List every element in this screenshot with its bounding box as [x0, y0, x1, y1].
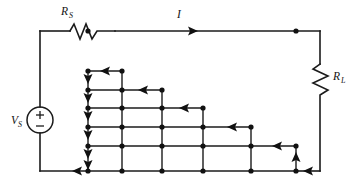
- mesh-node: [248, 124, 253, 129]
- mesh-node: [200, 124, 205, 129]
- mesh-node: [159, 168, 164, 173]
- mesh-node: [119, 105, 124, 110]
- mesh-node: [85, 124, 90, 129]
- mesh-node: [119, 68, 124, 73]
- mesh-node: [293, 143, 298, 148]
- mesh-node: [293, 168, 298, 173]
- mesh-node: [119, 143, 124, 148]
- mesh-node: [200, 168, 205, 173]
- load-resistor-label: R: [332, 70, 340, 82]
- mesh-node: [159, 87, 164, 92]
- node-top-left-tap: [85, 28, 90, 33]
- voltage-source-circle: [27, 107, 53, 133]
- mesh-node: [248, 168, 253, 173]
- mesh-node: [119, 87, 124, 92]
- circuit-schematic-svg: R S I R L V S: [0, 0, 353, 185]
- node-top-right-tap: [293, 28, 298, 33]
- mesh-node: [85, 143, 90, 148]
- load-resistor-label-subscript: L: [340, 76, 346, 85]
- mesh-node: [159, 124, 164, 129]
- current-label: I: [176, 8, 182, 20]
- mesh-node: [119, 168, 124, 173]
- mesh-node: [119, 124, 124, 129]
- mesh-node: [159, 105, 164, 110]
- circuit-diagram-figure: R S I R L V S: [0, 0, 353, 185]
- mesh-node: [85, 87, 90, 92]
- mesh-node: [85, 68, 90, 73]
- voltage-source-label-subscript: S: [18, 120, 22, 129]
- mesh-node: [200, 105, 205, 110]
- mesh-node: [200, 143, 205, 148]
- series-resistor-label-subscript: S: [69, 11, 73, 20]
- load-resistor-zigzag: [313, 64, 328, 171]
- series-resistor-zigzag: [70, 24, 115, 39]
- mesh-node: [85, 105, 90, 110]
- mesh-node: [159, 143, 164, 148]
- mesh-node: [248, 143, 253, 148]
- series-resistor-label: R: [60, 5, 68, 17]
